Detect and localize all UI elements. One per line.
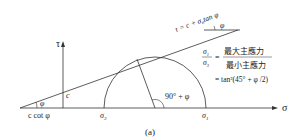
sigma-axis-arrow-icon xyxy=(272,106,278,110)
ratio-numerator-text: 最大主應力 xyxy=(224,46,264,56)
center-angle-label: 90° + φ xyxy=(165,92,190,101)
ratio-formula: = tan²(45° + φ /2) xyxy=(215,75,269,84)
principal-stress-ratio: σ1 σ3 = 最大主應力 最小主應力 = tan²(45° + φ /2) xyxy=(202,46,272,84)
figure-caption: (a) xyxy=(145,127,155,137)
ratio-denominator-text: 最小主應力 xyxy=(226,60,266,70)
top-angle-label: φ xyxy=(220,21,225,30)
top-angle-arc xyxy=(214,26,215,30)
ratio-equals: = xyxy=(215,53,220,62)
mohr-coulomb-diagram: σ τ φ τ = c + σntan φ φ c c cot φ 90° + … xyxy=(0,0,295,139)
x-intercept-label: c cot φ xyxy=(28,111,50,120)
left-angle-arc xyxy=(36,102,37,108)
radius-line xyxy=(137,59,155,108)
failure-envelope-line xyxy=(20,30,238,108)
ratio-numerator-symbol: σ1 xyxy=(203,47,209,57)
svg-text:τ = c + σntan φ: τ = c + σntan φ xyxy=(174,10,220,34)
ratio-denominator-symbol: σ3 xyxy=(203,58,210,68)
envelope-equation: τ = c + σntan φ xyxy=(174,10,220,34)
tau-axis-arrow-icon xyxy=(61,41,65,47)
tau-axis-label: τ xyxy=(56,38,60,49)
sigma-axis xyxy=(20,106,278,110)
tau-axis xyxy=(61,41,65,108)
sigma3-label: σ3 xyxy=(100,111,107,121)
left-angle-label: φ xyxy=(40,99,45,108)
sigma1-label: σ1 xyxy=(202,111,208,121)
mohr-circle xyxy=(104,57,206,108)
intercept-label: c xyxy=(66,91,70,100)
sigma-axis-label: σ xyxy=(282,102,288,113)
